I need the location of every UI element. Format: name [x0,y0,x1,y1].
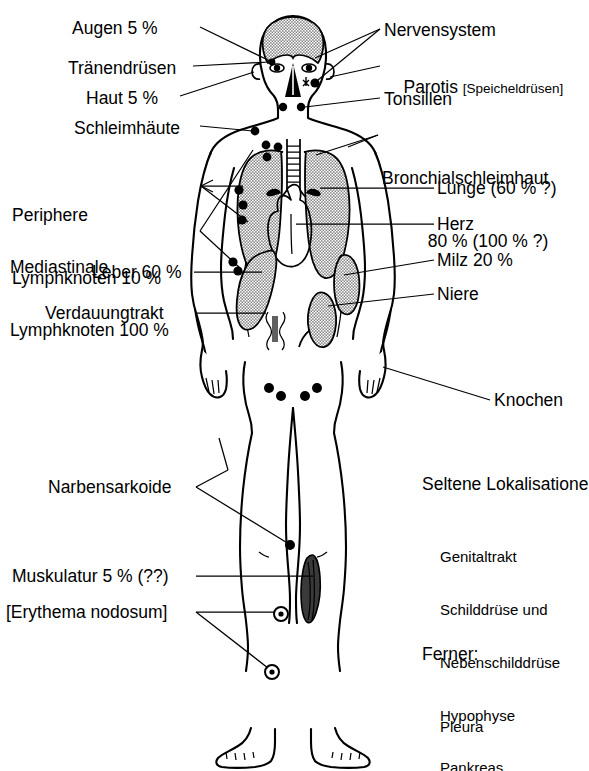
muscle-organ [301,555,320,623]
body-outline [191,16,395,768]
label-mediastinale-lymphknoten-line2: Lymphknoten 100 % [10,320,169,341]
label-lunge: Lunge (60 % ?) [437,178,557,198]
label-milz: Milz 20 % [437,250,513,270]
label-leber: Leber 60 % [92,262,182,282]
intestine-organ [266,312,285,350]
label-narbensarkoide: Narbensarkoide [48,477,172,497]
label-niere: Niere [437,284,479,304]
label-herz: Herz [437,214,474,234]
label-erythema-nodosum: [Erythema nodosum] [6,602,167,622]
label-tonsillen: Tonsillen [384,89,452,109]
sarcoidosis-diagram: Augen 5 % Tränendrüsen Haut 5 % Schleimh… [0,0,589,771]
label-mediastinale-lymphknoten: Mediastinale Lymphknoten 100 % [10,215,169,383]
list-ferner: Pleura Blutgefäße Knochenmark Synovia [440,683,533,771]
label-traenendruesen: Tränendrüsen [68,58,176,78]
label-schleimhaeute: Schleimhäute [74,118,180,138]
label-knochen: Knochen [494,390,563,410]
list-item: Genitaltrakt [440,548,560,566]
list-heading-ferner: Ferner: [422,644,478,664]
label-parotis-sub: [Speicheldrüsen] [463,81,564,96]
label-parotis: Parotis [Speicheldrüsen] [384,57,563,119]
label-nervensystem: Nervensystem [384,20,496,40]
list-item: Pleura [440,718,533,736]
kidney-organ [299,292,336,347]
liver-organ [237,251,277,330]
list-heading-seltene: Seltene Lokalisationen: [422,474,589,494]
label-haut: Haut 5 % [86,88,158,108]
label-bronchialschleimhaut-line2: 80 % (100 % ?) [382,231,548,252]
erythema-nodosum-marks [265,607,288,679]
brain-organ [263,17,324,63]
list-item: Schilddrüse und [440,601,560,619]
label-muskulatur: Muskulatur 5 % (??) [12,566,169,586]
label-augen: Augen 5 % [72,18,158,38]
label-verdauungstrakt: Verdauungtrakt [45,303,164,323]
